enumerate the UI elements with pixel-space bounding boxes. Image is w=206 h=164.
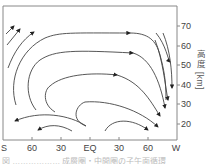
y-tick-60: 60 (181, 41, 191, 51)
x-tick-s: S (1, 143, 7, 153)
x-tick-w: W (172, 143, 181, 153)
circulation-diagram: S 60 30 EQ 30 60 W 70 60 50 40 30 20 高度 … (0, 0, 206, 164)
streamlines (6, 26, 172, 131)
x-tick-30n: 30 (114, 143, 124, 153)
y-tick-40: 40 (181, 80, 191, 90)
plot-frame (3, 6, 180, 140)
x-tick-60n: 60 (143, 143, 153, 153)
x-tick-eq: EQ (83, 143, 96, 153)
y-tick-70: 70 (181, 21, 191, 31)
x-tick-60s: 60 (27, 143, 37, 153)
y-tick-50: 50 (181, 60, 191, 70)
diagram-canvas (0, 0, 206, 164)
x-tick-30s: 30 (56, 143, 66, 153)
y-axis-label: 高度 [km] (194, 50, 206, 90)
y-tick-20: 20 (181, 119, 191, 129)
y-tick-30: 30 (181, 99, 191, 109)
figure-caption: 図 ……………… 成層圏・中間圏の子午面循環 (2, 155, 166, 164)
